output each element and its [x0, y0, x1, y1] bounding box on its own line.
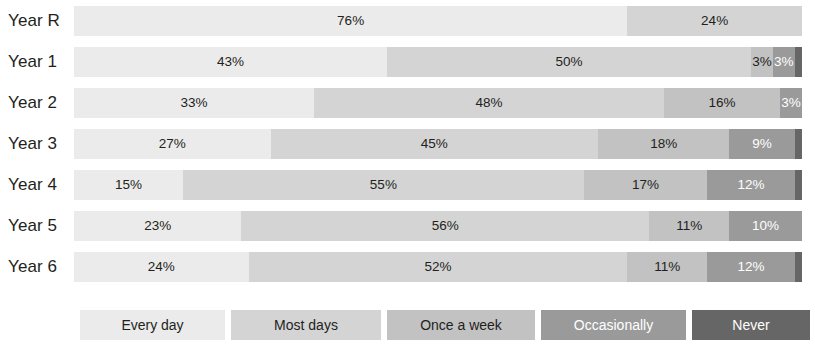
segment-value-label: 56%: [432, 219, 459, 233]
segment-value-label: 33%: [181, 96, 208, 110]
stacked-bar: 43%50%3%3%: [74, 47, 802, 77]
segment-value-label: 24%: [701, 14, 728, 28]
legend-item-once-a-week[interactable]: Once a week: [387, 310, 535, 340]
stacked-bar: 33%48%16%3%: [74, 88, 802, 118]
row-label-year-1: Year 1: [0, 52, 74, 72]
segment-value-label: 12%: [738, 260, 765, 274]
segment-value-label: 27%: [159, 137, 186, 151]
bar-segment-every-day: 76%: [74, 6, 627, 36]
segment-value-label: 24%: [148, 260, 175, 274]
chart-row: Year 327%45%18%9%: [0, 129, 802, 159]
row-label-year-6: Year 6: [0, 257, 74, 277]
segment-value-label: 10%: [752, 219, 779, 233]
bar-segment-occasionally: 12%: [707, 252, 794, 282]
bar-segment-once-a-week: 18%: [598, 129, 729, 159]
bar-segment-occasionally: 10%: [729, 211, 802, 241]
stacked-bar: 27%45%18%9%: [74, 129, 802, 159]
legend-label: Most days: [274, 317, 338, 333]
bar-segment-every-day: 24%: [74, 252, 249, 282]
row-label-year-r: Year R: [0, 11, 74, 31]
bar-segment-once-a-week: 11%: [627, 252, 707, 282]
chart-row: Year 233%48%16%3%: [0, 88, 802, 118]
chart-row: Year 143%50%3%3%: [0, 47, 802, 77]
chart-legend: Every dayMost daysOnce a weekOccasionall…: [80, 310, 815, 340]
bar-segment-once-a-week: 3%: [751, 47, 773, 77]
bar-segment-most-days: 55%: [183, 170, 583, 200]
segment-value-label: 9%: [752, 137, 772, 151]
legend-item-most-days[interactable]: Most days: [231, 310, 381, 340]
legend-item-every-day[interactable]: Every day: [80, 310, 225, 340]
stacked-bar: 24%52%11%12%: [74, 252, 802, 282]
segment-value-label: 55%: [370, 178, 397, 192]
chart-row: Year 415%55%17%12%: [0, 170, 802, 200]
legend-label: Occasionally: [574, 317, 653, 333]
segment-value-label: 45%: [421, 137, 448, 151]
segment-value-label: 3%: [781, 96, 801, 110]
stacked-bar: 76%24%: [74, 6, 802, 36]
stacked-bar: 15%55%17%12%: [74, 170, 802, 200]
legend-label: Once a week: [420, 317, 502, 333]
bar-segment-most-days: 45%: [271, 129, 599, 159]
bar-segment-most-days: 24%: [627, 6, 802, 36]
bar-segment-occasionally: 3%: [773, 47, 795, 77]
legend-label: Never: [732, 317, 769, 333]
segment-value-label: 76%: [337, 14, 364, 28]
bar-segment-every-day: 33%: [74, 88, 314, 118]
segment-value-label: 12%: [737, 178, 764, 192]
segment-value-label: 43%: [217, 55, 244, 69]
chart-row: Year R76%24%: [0, 6, 802, 36]
bar-segment-never: [795, 170, 802, 200]
segment-value-label: 3%: [752, 55, 772, 69]
bar-segment-once-a-week: 17%: [584, 170, 708, 200]
segment-value-label: 16%: [708, 96, 735, 110]
segment-value-label: 50%: [556, 55, 583, 69]
bar-segment-every-day: 23%: [74, 211, 241, 241]
bar-segment-occasionally: 12%: [707, 170, 794, 200]
segment-value-label: 48%: [475, 96, 502, 110]
bar-segment-every-day: 27%: [74, 129, 271, 159]
bar-segment-every-day: 43%: [74, 47, 387, 77]
bar-segment-most-days: 48%: [314, 88, 663, 118]
row-label-year-5: Year 5: [0, 216, 74, 236]
bar-segment-once-a-week: 11%: [649, 211, 729, 241]
row-label-year-3: Year 3: [0, 134, 74, 154]
bar-segment-never: [795, 47, 802, 77]
segment-value-label: 3%: [774, 55, 794, 69]
segment-value-label: 52%: [424, 260, 451, 274]
bar-segment-most-days: 56%: [241, 211, 649, 241]
segment-value-label: 11%: [676, 219, 702, 233]
chart-row: Year 624%52%11%12%: [0, 252, 802, 282]
bar-segment-occasionally: 9%: [729, 129, 795, 159]
stacked-bar-chart: Year R76%24%Year 143%50%3%3%Year 233%48%…: [0, 0, 815, 344]
stacked-bar: 23%56%11%10%: [74, 211, 802, 241]
segment-value-label: 18%: [650, 137, 677, 151]
bar-segment-most-days: 50%: [387, 47, 751, 77]
bar-segment-every-day: 15%: [74, 170, 183, 200]
segment-value-label: 23%: [144, 219, 171, 233]
legend-label: Every day: [121, 317, 183, 333]
chart-row: Year 523%56%11%10%: [0, 211, 802, 241]
bar-segment-most-days: 52%: [249, 252, 628, 282]
segment-value-label: 15%: [115, 178, 142, 192]
bar-segment-occasionally: 3%: [780, 88, 802, 118]
legend-item-occasionally[interactable]: Occasionally: [541, 310, 686, 340]
bar-segment-never: [795, 252, 802, 282]
segment-value-label: 17%: [632, 178, 659, 192]
legend-item-never[interactable]: Never: [692, 310, 810, 340]
row-label-year-4: Year 4: [0, 175, 74, 195]
row-label-year-2: Year 2: [0, 93, 74, 113]
segment-value-label: 11%: [654, 260, 680, 274]
bar-segment-once-a-week: 16%: [664, 88, 780, 118]
bar-segment-never: [795, 129, 802, 159]
